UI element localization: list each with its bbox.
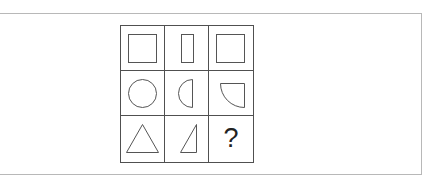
quarter-circle-icon xyxy=(209,71,253,116)
cell-r2-c1 xyxy=(121,71,165,116)
half-circle-icon xyxy=(165,71,209,116)
question-mark: ? xyxy=(209,122,253,154)
circle-icon xyxy=(121,71,165,116)
cell-r1-c2 xyxy=(165,26,209,71)
cell-r3-c2 xyxy=(165,116,209,162)
square-icon xyxy=(121,26,165,71)
right-triangle-icon xyxy=(165,116,209,162)
narrow-rectangle-icon xyxy=(165,26,209,71)
cell-r3-c1 xyxy=(121,116,165,162)
cell-r2-c2 xyxy=(165,71,209,116)
cell-r1-c3 xyxy=(209,26,253,71)
cell-r1-c1 xyxy=(121,26,165,71)
cell-r2-c3 xyxy=(209,71,253,116)
square-icon xyxy=(209,26,253,71)
triangle-icon xyxy=(121,116,165,162)
cell-r3-c3: ? xyxy=(209,116,253,162)
puzzle-grid: ? xyxy=(120,25,254,163)
